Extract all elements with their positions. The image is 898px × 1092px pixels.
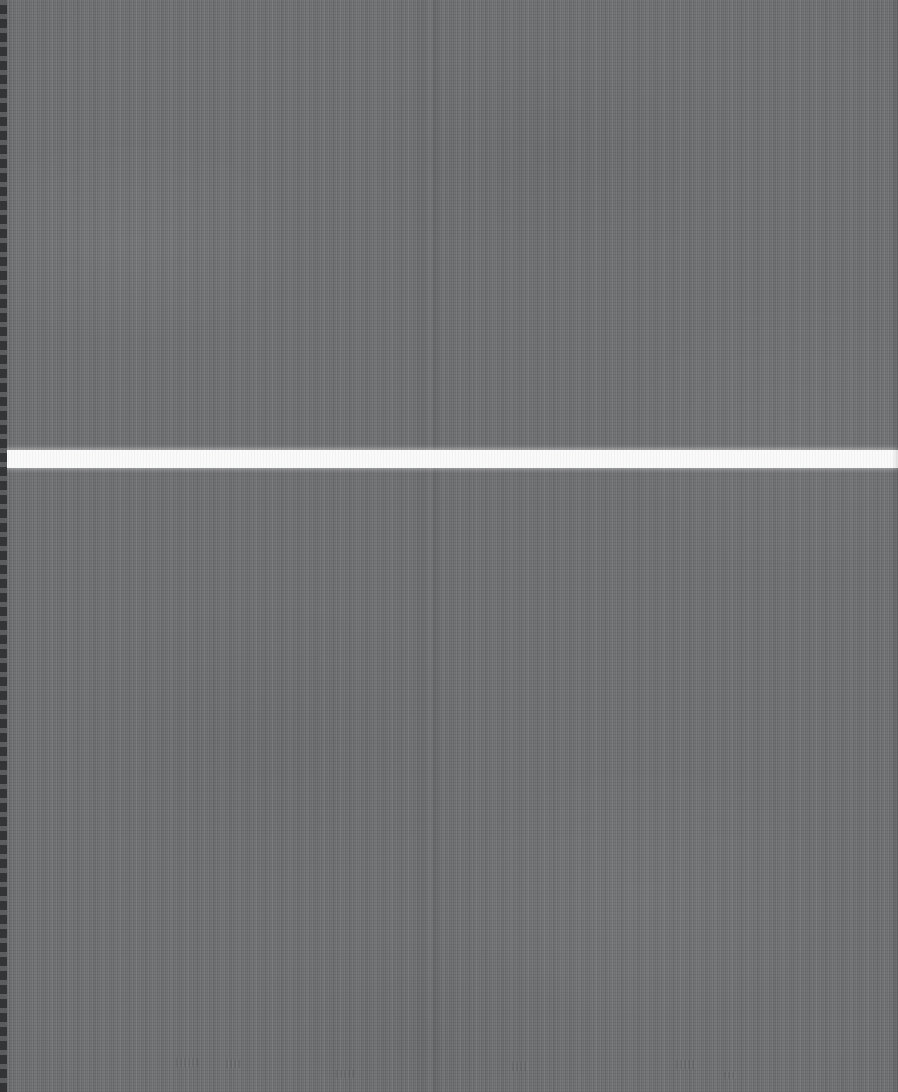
upper-panel[interactable] — [0, 0, 898, 450]
lower-panel[interactable] — [0, 468, 898, 1092]
screenshot-canvas: Corrupted / illegible screen capture: a … — [0, 0, 898, 1092]
